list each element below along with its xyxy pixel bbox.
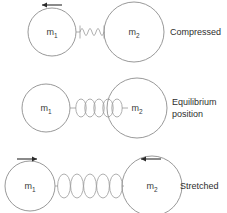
mass-label-m2-compressed: m2: [128, 27, 140, 39]
state-label-compressed: Compressed: [170, 27, 221, 37]
mass-spring-diagram: m1 m2 Compressed m1 m2: [0, 0, 227, 213]
mass-label-m1-stretched: m1: [24, 181, 36, 193]
state-label-stretched: Stretched: [180, 181, 219, 191]
right-arrow-icon-stretched-m1: [17, 157, 37, 162]
mass-label-m2-stretched: m2: [146, 181, 158, 193]
mass-label-m1-compressed: m1: [46, 27, 58, 39]
spring-equilibrium: [70, 99, 128, 117]
row-equilibrium: m1 m2 Equilibrium position: [22, 78, 217, 138]
spring-compressed: [76, 26, 105, 39]
left-arrow-icon-compressed: [42, 3, 62, 8]
spring-stretched: [55, 174, 124, 198]
state-label-equilibrium-line2: position: [172, 109, 203, 119]
mass-label-m1-equilibrium: m1: [40, 103, 52, 115]
row-stretched: m1 m2 Stretched: [5, 156, 219, 213]
state-label-equilibrium-line1: Equilibrium: [172, 97, 217, 107]
mass-label-m2-equilibrium: m2: [131, 103, 143, 115]
row-compressed: m1 m2 Compressed: [28, 2, 221, 62]
